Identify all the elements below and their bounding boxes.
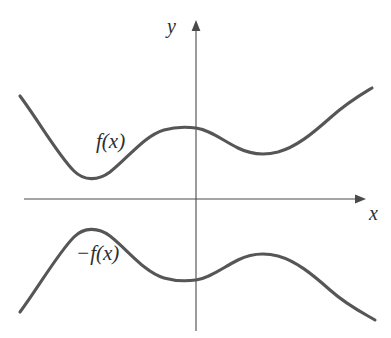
y-axis	[192, 20, 201, 331]
curve-label-f-of-x: f(x)	[96, 131, 125, 152]
x-axis	[24, 195, 366, 204]
curve-label-negative-f-of-x: −f(x)	[76, 243, 119, 264]
plot-canvas	[0, 0, 391, 338]
curve-negative-f-of-x	[20, 229, 375, 320]
x-axis-label: x	[369, 203, 378, 223]
y-axis-arrowhead	[192, 20, 201, 31]
x-axis-arrowhead	[355, 195, 366, 204]
function-reflection-figure: y x f(x) −f(x)	[0, 0, 391, 338]
y-axis-label: y	[167, 16, 176, 36]
